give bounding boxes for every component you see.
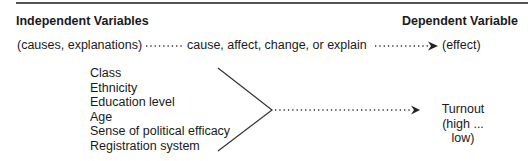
- list-item: Sense of political efficacy: [90, 124, 230, 139]
- list-item: Ethnicity: [90, 81, 230, 96]
- list-item: Age: [90, 110, 230, 125]
- dependent-variable-box: Turnout (high ... low): [430, 102, 496, 146]
- list-item: Education level: [90, 95, 230, 110]
- list-item: Class: [90, 66, 230, 81]
- list-item: Registration system: [90, 139, 230, 154]
- independent-variable-list: Class Ethnicity Education level Age Sens…: [90, 66, 230, 154]
- outcome-range: (high ... low): [430, 117, 496, 146]
- outcome-name: Turnout: [430, 102, 496, 117]
- arrowhead-icon: [411, 106, 420, 115]
- arrowhead-icon: [428, 42, 438, 51]
